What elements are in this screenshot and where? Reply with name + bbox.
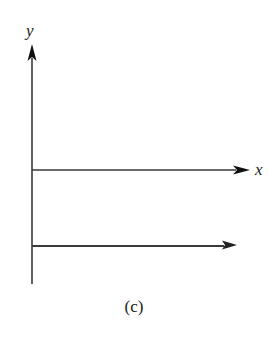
figure-caption: (c) (125, 297, 144, 316)
x-axis-label: x (254, 160, 263, 179)
y-axis-label: y (24, 21, 34, 40)
x-axis: x (32, 160, 263, 179)
y-axis: y (24, 21, 37, 284)
vector-arrowhead-icon (222, 241, 237, 250)
vector-diagram: y x (c) (0, 0, 268, 337)
vector-arrow (32, 241, 237, 250)
